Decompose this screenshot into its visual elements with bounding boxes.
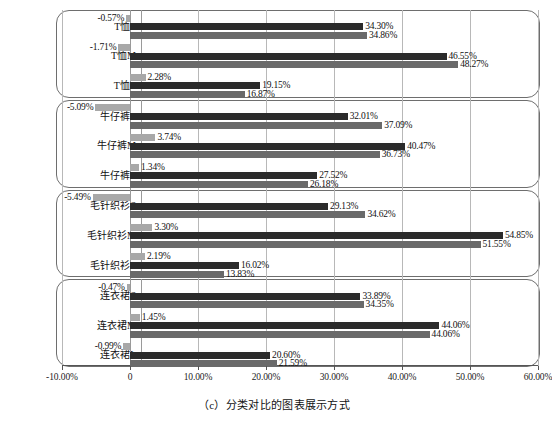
bar-连衣裙L-s1 xyxy=(123,343,130,350)
bar-value-label: -1.71% xyxy=(90,43,117,53)
bar-T恤S-s1 xyxy=(126,15,130,22)
bar-value-label: 51.55% xyxy=(483,240,511,250)
bar-value-label: 16.87% xyxy=(247,90,275,100)
bar-牛仔裤S-s3 xyxy=(130,122,382,129)
bar-value-label: 29.13% xyxy=(330,202,358,212)
bar-value-label: 21.59% xyxy=(279,359,307,369)
bar-value-label: 36.73% xyxy=(382,150,410,160)
bar-牛仔裤M-s2 xyxy=(130,143,405,150)
bar-value-label: 34.35% xyxy=(366,300,394,310)
x-tick-label: 0 xyxy=(128,372,133,382)
bar-毛针织衫L-s1 xyxy=(130,253,145,260)
x-tick-label: 30.00% xyxy=(320,372,349,382)
bar-value-label: 34.62% xyxy=(367,210,395,220)
gridline--10 xyxy=(62,10,63,366)
bar-value-label: 40.47% xyxy=(407,142,435,152)
bar-value-label: -5.09% xyxy=(67,103,94,113)
tick-mark-10 xyxy=(198,366,199,370)
bar-牛仔裤M-s3 xyxy=(130,151,380,158)
bar-T恤M-s2 xyxy=(130,53,447,60)
x-tick-label: 10.00% xyxy=(184,372,213,382)
bar-value-label: 26.18% xyxy=(310,180,338,190)
bar-毛针织衫L-s3 xyxy=(130,271,224,278)
bar-连衣裙M-s3 xyxy=(130,331,430,338)
figure-caption: （c）分类对比的图表展示方式 xyxy=(0,396,548,412)
bar-value-label: 48.27% xyxy=(460,60,488,70)
x-tick-label: -10.00% xyxy=(46,372,78,382)
tick-mark-60 xyxy=(538,366,539,370)
bar-value-label: 2.19% xyxy=(147,252,171,262)
bar-毛针织衫L-s2 xyxy=(130,262,239,269)
bar-毛针织衫M-s1 xyxy=(130,224,152,231)
bar-value-label: -0.57% xyxy=(98,14,125,24)
bar-value-label: 34.86% xyxy=(369,31,397,41)
bar-value-label: 1.45% xyxy=(142,313,166,323)
x-tick-label: 50.00% xyxy=(456,372,485,382)
bar-连衣裙M-s1 xyxy=(130,314,140,321)
bar-牛仔裤L-s3 xyxy=(130,181,308,188)
tick-mark-20 xyxy=(266,366,267,370)
x-tick-label: 40.00% xyxy=(388,372,417,382)
bar-毛针织衫M-s2 xyxy=(130,232,503,239)
tick-mark-40 xyxy=(402,366,403,370)
tick-mark--10 xyxy=(62,366,63,370)
bar-连衣裙S-s1 xyxy=(127,284,130,291)
bar-value-label: 44.06% xyxy=(432,330,460,340)
bar-value-label: -0.47% xyxy=(98,283,125,293)
bar-牛仔裤S-s2 xyxy=(130,113,348,120)
bar-value-label: 37.09% xyxy=(384,121,412,131)
bar-毛针织衫S-s2 xyxy=(130,203,328,210)
bar-牛仔裤L-s1 xyxy=(130,164,139,171)
bar-连衣裙S-s2 xyxy=(130,293,360,300)
bar-T恤L-s1 xyxy=(130,74,146,81)
bar-value-label: 3.74% xyxy=(157,133,181,143)
bar-value-label: 3.30% xyxy=(154,223,178,233)
bar-牛仔裤L-s2 xyxy=(130,172,317,179)
bar-T恤S-s2 xyxy=(130,23,363,30)
bar-T恤S-s3 xyxy=(130,32,367,39)
tick-mark-30 xyxy=(334,366,335,370)
bar-毛针织衫S-s1 xyxy=(93,194,130,201)
tick-mark-50 xyxy=(470,366,471,370)
bar-毛针织衫M-s3 xyxy=(130,241,481,248)
bar-T恤L-s3 xyxy=(130,91,245,98)
plot-area: -0.57%34.30%34.86%-1.71%46.55%48.27%2.28… xyxy=(62,10,538,378)
bar-牛仔裤M-s1 xyxy=(130,134,155,141)
bar-T恤M-s3 xyxy=(130,61,458,68)
bar-value-label: 1.34% xyxy=(141,163,165,173)
x-tick-label: 60.00% xyxy=(524,372,552,382)
bar-连衣裙M-s2 xyxy=(130,322,439,329)
bar-value-label: 32.01% xyxy=(350,112,378,122)
bar-value-label: 13.83% xyxy=(226,270,254,280)
bar-T恤M-s1 xyxy=(118,44,130,51)
tick-mark-0 xyxy=(130,366,131,370)
bar-连衣裙L-s2 xyxy=(130,352,270,359)
bar-T恤L-s2 xyxy=(130,82,260,89)
bar-value-label: -5.49% xyxy=(64,193,91,203)
bar-value-label: 2.28% xyxy=(148,73,172,83)
bar-牛仔裤S-s1 xyxy=(95,104,130,111)
gridline-60 xyxy=(538,10,539,366)
bar-毛针织衫S-s3 xyxy=(130,211,365,218)
bar-连衣裙S-s3 xyxy=(130,301,364,308)
bar-value-label: -0.99% xyxy=(95,342,122,352)
x-tick-label: 20.00% xyxy=(252,372,281,382)
bar-连衣裙L-s3 xyxy=(130,360,277,367)
